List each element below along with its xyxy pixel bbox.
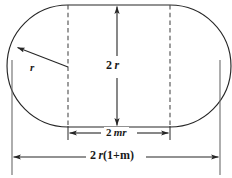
label-total-width: 2 r(1+m) — [88, 149, 136, 161]
label-inner-width: 2 mr — [104, 127, 129, 138]
radius-arrow — [18, 48, 69, 68]
geometry-figure: r 2 r 2 mr 2 r(1+m) — [0, 0, 232, 178]
label-radius: r — [28, 62, 36, 73]
label-height: 2 r — [104, 59, 121, 71]
